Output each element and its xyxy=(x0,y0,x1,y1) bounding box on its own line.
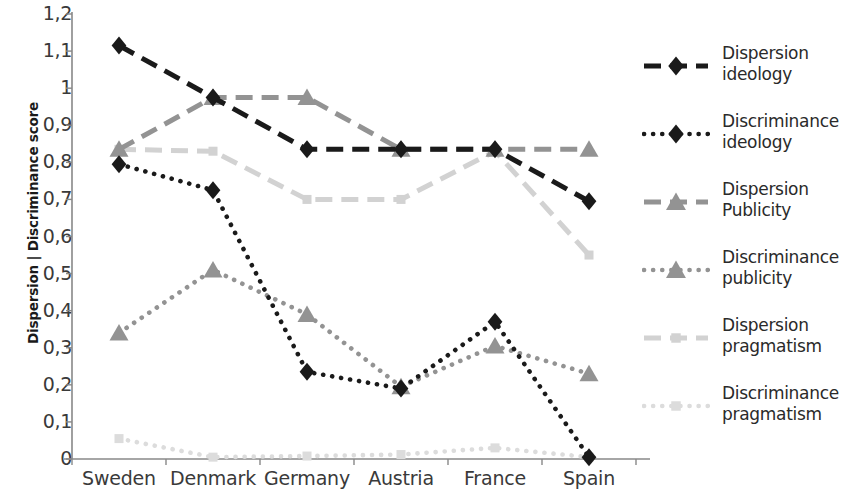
data-point-marker xyxy=(397,195,406,204)
legend-label: Dispersion Publicity xyxy=(722,179,856,220)
data-point-marker xyxy=(582,192,597,210)
series-line xyxy=(115,434,594,462)
legend-marker-icon xyxy=(642,191,710,213)
data-point-marker xyxy=(298,305,317,322)
legend-marker-icon xyxy=(642,259,710,281)
legend-label: Dispersion pragmatism xyxy=(722,315,856,356)
axis-lines xyxy=(64,12,650,465)
chart-figure: Dispersion | Discriminance score 00,10,2… xyxy=(0,0,856,493)
data-point-marker xyxy=(209,453,218,462)
legend-label: Dispersion ideology xyxy=(722,43,856,84)
legend-item[interactable]: Dispersion pragmatism xyxy=(640,317,856,379)
data-point-marker xyxy=(112,37,127,55)
legend-label: Discriminance pragmatism xyxy=(722,383,856,424)
legend-item[interactable]: Discriminance pragmatism xyxy=(640,385,856,447)
data-point-marker xyxy=(204,261,223,278)
data-point-marker xyxy=(491,443,500,452)
series-line xyxy=(110,261,599,394)
data-point-marker xyxy=(486,337,505,354)
data-point-marker xyxy=(209,147,218,156)
data-point-marker xyxy=(112,155,127,173)
legend-marker-icon xyxy=(642,123,710,145)
legend-marker-icon xyxy=(642,395,710,417)
legend-label: Discriminance publicity xyxy=(722,247,856,288)
data-point-marker xyxy=(300,363,315,381)
legend-item[interactable]: Dispersion Publicity xyxy=(640,181,856,243)
data-point-marker xyxy=(580,140,599,157)
data-point-marker xyxy=(300,140,315,158)
legend-marker-icon xyxy=(642,55,710,77)
data-point-marker xyxy=(303,452,312,461)
data-point-marker xyxy=(115,434,124,443)
legend-item[interactable]: Discriminance publicity xyxy=(640,249,856,311)
legend-label: Discriminance ideology xyxy=(722,111,856,152)
legend-marker-icon xyxy=(642,327,710,349)
data-point-marker xyxy=(206,181,221,199)
data-point-marker xyxy=(585,251,594,260)
x-tick-label: Spain xyxy=(529,467,649,489)
data-point-marker xyxy=(582,448,597,466)
data-point-marker xyxy=(303,195,312,204)
series-line xyxy=(110,88,599,156)
chart-legend: Dispersion ideologyDiscriminance ideolog… xyxy=(640,45,856,465)
legend-item[interactable]: Dispersion ideology xyxy=(640,45,856,107)
data-point-marker xyxy=(397,450,406,459)
legend-item[interactable]: Discriminance ideology xyxy=(640,113,856,175)
